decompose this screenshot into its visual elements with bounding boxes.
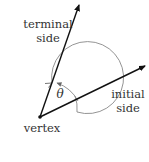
vertex-label: vertex [23,121,61,135]
initial-side-label-line2: side [116,101,140,115]
angle-diagram: terminal side initial side vertex θ [0,0,149,162]
terminal-side-label-line1: terminal [23,17,73,31]
initial-side-label-line1: initial [111,87,145,101]
angle-theta-label: θ [56,87,64,101]
vertex-point [38,115,42,119]
terminal-side-label-line2: side [36,31,60,45]
